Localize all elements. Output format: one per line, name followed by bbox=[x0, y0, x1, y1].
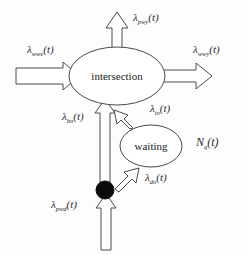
junction-dot bbox=[96, 181, 114, 199]
label-to-arg: (t) bbox=[160, 102, 170, 114]
label-do-arg: (t) bbox=[156, 171, 166, 183]
arrow-junction-to-waiting bbox=[115, 168, 139, 192]
label-right-outflow-arg: (t) bbox=[209, 43, 219, 55]
label-queue-count: Nq(t) bbox=[196, 136, 219, 151]
label-right-outflow-subscript: wwy bbox=[198, 50, 210, 57]
label-bottom-inflow-arg: (t) bbox=[67, 198, 77, 210]
node-intersection-label: intersection bbox=[91, 70, 143, 82]
label-top-outflow-arg: (t) bbox=[148, 11, 158, 23]
arrow-junction-to-intersection bbox=[95, 99, 115, 190]
label-top-outflow-subscript: pwy bbox=[138, 18, 148, 25]
arrow-waiting-to-intersection bbox=[114, 110, 133, 129]
label-bottom-inflow: λpwd(t) bbox=[51, 199, 77, 213]
label-to: λto(t) bbox=[150, 103, 170, 117]
label-bo-arg: (t) bbox=[73, 110, 83, 122]
label-bottom-inflow-subscript: pwd bbox=[56, 205, 67, 212]
label-do: λdo(t) bbox=[145, 172, 167, 186]
node-waiting-label: waiting bbox=[135, 140, 168, 152]
diagram-graphics: intersection waiting bbox=[0, 0, 248, 255]
label-left-inflow-subscript: wwe bbox=[32, 50, 44, 57]
label-queue-count-arg: (t) bbox=[207, 135, 218, 149]
label-queue-count-symbol: N bbox=[196, 135, 204, 149]
diagram-canvas: intersection waiting λpwy(t) λwwe(t) λww… bbox=[0, 0, 248, 255]
label-right-outflow: λwwy(t) bbox=[193, 44, 220, 58]
label-left-inflow-arg: (t) bbox=[43, 43, 53, 55]
label-left-inflow: λwwe(t) bbox=[27, 44, 54, 58]
label-top-outflow: λpwy(t) bbox=[133, 12, 159, 26]
arrow-bottom-inflow bbox=[96, 194, 116, 250]
label-bo: λbo(t) bbox=[62, 111, 84, 125]
